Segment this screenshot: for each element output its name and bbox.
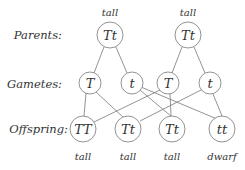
offspring-genotype: Tt	[165, 122, 180, 137]
line-p1-g1	[94, 47, 104, 73]
parent-phenotype: tall	[102, 7, 118, 18]
row-label-gametes: Gametes:	[7, 77, 62, 91]
genetic-cross-diagram: Parents: Gametes: Offspring: tall Tt tal…	[0, 0, 245, 170]
offspring-node: tt dwarf	[207, 116, 239, 162]
offspring-node: Tt tall	[115, 116, 141, 162]
line-g4-o4	[213, 94, 222, 116]
gamete-node: t	[121, 72, 143, 94]
offspring-genotype: TT	[74, 122, 93, 137]
cross-diagram-svg: Parents: Gametes: Offspring: tall Tt tal…	[0, 0, 245, 170]
parent-phenotype: tall	[180, 7, 196, 18]
gamete-node: T	[157, 72, 179, 94]
offspring-phenotype: tall	[164, 151, 180, 162]
gamete-allele: t	[207, 76, 213, 91]
gamete-allele: t	[129, 76, 135, 91]
parent-node: tall Tt	[97, 7, 123, 48]
offspring-genotype: tt	[217, 122, 228, 137]
offspring-phenotype: tall	[120, 151, 136, 162]
offspring-node: Tt tall	[159, 116, 185, 162]
gamete-allele: T	[86, 76, 96, 91]
line-g1-o1	[84, 93, 86, 116]
gamete-node: T	[79, 72, 101, 94]
row-label-parents: Parents:	[13, 28, 62, 42]
offspring-node: TT tall	[70, 116, 96, 162]
line-p2-g3	[172, 47, 182, 73]
offspring-phenotype: dwarf	[207, 151, 239, 162]
line-p2-g4	[194, 47, 205, 73]
line-p1-g2	[116, 47, 127, 73]
gamete-allele: T	[164, 76, 174, 91]
parent-genotype: Tt	[181, 28, 196, 43]
offspring-genotype: Tt	[121, 122, 136, 137]
parent-node: tall Tt	[175, 7, 201, 48]
gamete-node: t	[199, 72, 221, 94]
row-label-offspring: Offspring:	[9, 122, 68, 136]
parent-genotype: Tt	[103, 28, 118, 43]
offspring-phenotype: tall	[75, 151, 91, 162]
